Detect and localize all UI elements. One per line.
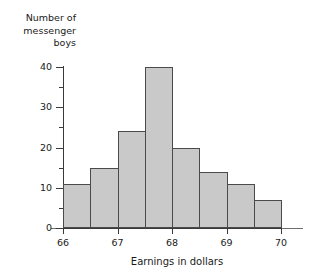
y-tick-minor [59,127,64,128]
x-tick [118,229,119,234]
histogram-bar [145,67,173,228]
x-tick-label: 66 [48,238,78,248]
x-tick [172,229,173,234]
y-tick-label: 40 [24,62,52,72]
y-tick-label: 0 [24,223,52,233]
histogram-bar [227,184,255,228]
x-tick-label: 70 [266,238,296,248]
histogram-bar [118,131,146,228]
y-tick-major [56,148,64,149]
histogram-bar [254,200,282,228]
y-tick-minor [59,168,64,169]
histogram-bar [172,148,200,229]
y-tick-minor [59,87,64,88]
x-axis-title: Earnings in dollars [51,256,303,268]
histogram-bar [199,172,227,228]
x-tick-label: 67 [103,238,133,248]
x-tick-label: 68 [157,238,187,248]
x-tick [281,229,282,234]
y-tick-major [56,107,64,108]
histogram-bar [90,168,118,228]
x-tick-label: 69 [212,238,242,248]
x-tick [63,229,64,234]
y-tick-label: 30 [24,102,52,112]
histogram-bar [63,184,91,228]
x-tick [227,229,228,234]
y-tick-label: 20 [24,143,52,153]
y-tick-label: 10 [24,183,52,193]
histogram-plot-area: 010203040 6667686970 [0,0,318,280]
y-tick-major [56,67,64,68]
